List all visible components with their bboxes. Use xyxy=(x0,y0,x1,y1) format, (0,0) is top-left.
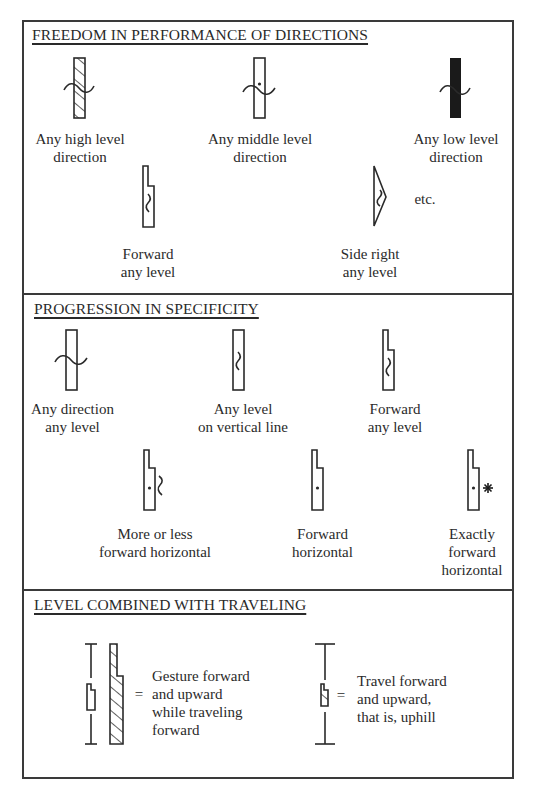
side-right-any-level-symbol xyxy=(368,164,398,230)
label-forward-horizontal: Forward horizontal xyxy=(280,525,365,561)
any-direction-any-level-symbol xyxy=(52,328,92,393)
section-divider xyxy=(22,293,514,295)
label-exactly-forward-horizontal: Exactly forward horizontal xyxy=(430,525,514,579)
exactly-forward-horizontal-symbol xyxy=(464,448,504,514)
section-title-level-travel: LEVEL COMBINED WITH TRAVELING xyxy=(34,596,306,614)
section-title-progression: PROGRESSION IN SPECIFICITY xyxy=(34,300,259,318)
more-or-less-forward-horizontal-symbol xyxy=(140,448,170,514)
label-side-right-any-level: Side right any level xyxy=(330,245,410,281)
label-any-level-vertical-line: Any level on vertical line xyxy=(188,400,298,436)
section-divider xyxy=(22,589,514,591)
label-forward-any-level-2: Forward any level xyxy=(355,400,435,436)
forward-any-level-symbol-2 xyxy=(378,328,408,394)
label-high-level: Any high level direction xyxy=(30,130,130,166)
etc-label: etc. xyxy=(405,190,445,208)
middle-level-direction-symbol xyxy=(240,56,280,121)
forward-any-level-symbol xyxy=(138,164,168,230)
label-travel-uphill: Travel forward and upward, that is, uphi… xyxy=(357,672,467,726)
low-level-direction-symbol xyxy=(436,56,476,121)
label-low-level: Any low level direction xyxy=(410,130,502,166)
forward-horizontal-symbol xyxy=(308,448,338,514)
label-middle-level: Any middle level direction xyxy=(200,130,320,166)
equals-sign-2: = xyxy=(335,686,347,704)
label-gesture-with-travel: Gesture forward and upward while traveli… xyxy=(152,667,262,739)
equals-sign-1: = xyxy=(133,685,145,703)
any-level-vertical-line-symbol xyxy=(226,328,256,393)
label-forward-any-level: Forward any level xyxy=(108,245,188,281)
label-more-or-less-forward-horizontal: More or less forward horizontal xyxy=(90,525,220,561)
label-any-direction-any-level: Any direction any level xyxy=(25,400,120,436)
section-title-freedom: FREEDOM IN PERFORMANCE OF DIRECTIONS xyxy=(32,26,368,44)
high-level-direction-symbol xyxy=(60,56,100,121)
gesture-with-travel-symbol xyxy=(82,640,132,750)
